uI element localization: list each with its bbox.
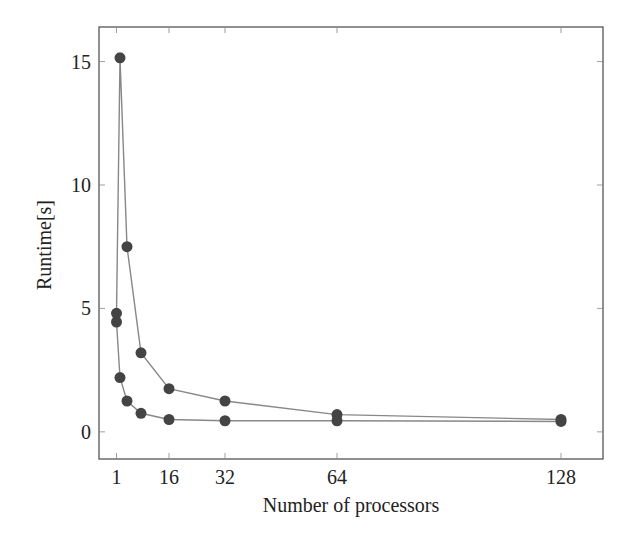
data-point-marker [122, 241, 133, 252]
x-tick-label: 32 [215, 466, 235, 488]
x-tick-label: 64 [327, 466, 347, 488]
y-tick-label: 0 [81, 421, 91, 443]
data-point-marker [164, 414, 175, 425]
data-point-marker [115, 52, 126, 63]
x-tick-label: 16 [159, 466, 179, 488]
series-line [117, 322, 562, 422]
data-point-marker [111, 316, 122, 327]
series-a [111, 52, 567, 425]
data-point-marker [136, 347, 147, 358]
data-point-marker [136, 408, 147, 419]
data-point-marker [115, 372, 126, 383]
y-tick-label: 15 [71, 51, 91, 73]
runtime-chart: 1163264128051015 Number of processors Ru… [0, 0, 638, 542]
y-tick-label: 10 [71, 174, 91, 196]
x-axis-label: Number of processors [263, 494, 440, 517]
series-line [117, 58, 562, 420]
plot-border [99, 27, 603, 459]
y-tick-label: 5 [81, 297, 91, 319]
data-point-marker [220, 415, 231, 426]
series-layer [111, 52, 567, 427]
data-point-marker [332, 415, 343, 426]
axis-ticks [99, 27, 603, 459]
tick-labels: 1163264128051015 [71, 51, 576, 488]
data-point-marker [164, 383, 175, 394]
data-point-marker [220, 395, 231, 406]
x-tick-label: 128 [546, 466, 576, 488]
y-axis-label: Runtime[s] [33, 200, 55, 290]
plot-frame [99, 27, 603, 459]
data-point-marker [122, 395, 133, 406]
data-point-marker [556, 416, 567, 427]
x-tick-label: 1 [112, 466, 122, 488]
